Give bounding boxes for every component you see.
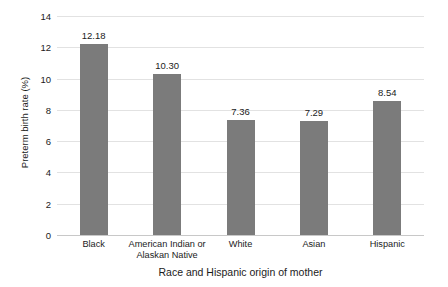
y-axis-tick-label: 10 bbox=[40, 73, 51, 84]
y-axis-tick-label: 12 bbox=[40, 42, 51, 53]
bar-value-label: 8.54 bbox=[378, 87, 397, 98]
x-axis-title: Race and Hispanic origin of mother bbox=[57, 266, 424, 278]
bar: 8.54 bbox=[373, 101, 401, 235]
y-axis-tick-label: 14 bbox=[40, 11, 51, 22]
y-axis-tick-label: 8 bbox=[46, 104, 51, 115]
x-axis-tick-label: Hispanic bbox=[335, 239, 439, 250]
gridline bbox=[57, 47, 424, 48]
bar-value-label: 7.36 bbox=[231, 106, 250, 117]
bar: 7.29 bbox=[300, 121, 328, 235]
bar: 10.30 bbox=[153, 74, 181, 235]
y-axis-title: Preterm birth rate (%) bbox=[17, 5, 33, 240]
y-axis-tick-label: 6 bbox=[46, 136, 51, 147]
y-axis-tick-label: 2 bbox=[46, 198, 51, 209]
bar-chart: Preterm birth rate (%) 02468101214 12.18… bbox=[0, 0, 448, 287]
plot-area: 02468101214 12.1810.307.367.298.54 bbox=[57, 16, 424, 235]
x-axis-tick-label-line: Hispanic bbox=[335, 239, 439, 250]
gridline bbox=[57, 79, 424, 80]
bar-value-label: 12.18 bbox=[82, 30, 106, 41]
bar-value-label: 10.30 bbox=[155, 60, 179, 71]
bar-value-label: 7.29 bbox=[305, 107, 324, 118]
x-axis-tick-label-line: Alaskan Native bbox=[115, 250, 219, 261]
gridline bbox=[57, 16, 424, 17]
bar: 7.36 bbox=[227, 120, 255, 235]
bar: 12.18 bbox=[80, 44, 108, 235]
y-axis-tick-label: 4 bbox=[46, 167, 51, 178]
axis-baseline bbox=[57, 235, 424, 236]
